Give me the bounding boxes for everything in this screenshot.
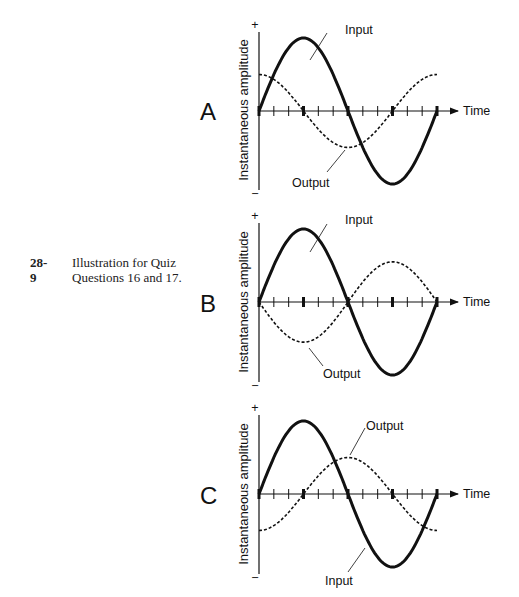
y-axis-label-a: Instantaneous amplitude — [236, 39, 251, 181]
input-label-a: Input — [345, 23, 373, 37]
y-axis-label-b: Instantaneous amplitude — [236, 231, 251, 373]
x-axis-label-b: Time — [463, 295, 490, 309]
minus-symbol-a: − — [251, 187, 258, 201]
panel-letter-b: B — [200, 290, 216, 317]
minus-symbol-b: − — [251, 379, 258, 393]
x-axis-label-c: Time — [463, 487, 490, 501]
output-label-a: Output — [292, 176, 330, 190]
output-label-b: Output — [323, 367, 361, 381]
panel-letter-a: A — [200, 98, 216, 125]
x-axis-label-a: Time — [463, 104, 490, 118]
panel-a: A Instantaneous amplitude + − Time Input… — [200, 18, 490, 201]
y-axis-label-c: Instantaneous amplitude — [236, 423, 251, 565]
phase-diagram: A Instantaneous amplitude + − Time Input… — [0, 0, 519, 597]
plus-symbol-c: + — [251, 401, 258, 415]
panel-b: B Instantaneous amplitude + − Time Input… — [200, 209, 490, 393]
output-label-c: Output — [366, 419, 404, 433]
plus-symbol-a: + — [251, 18, 258, 32]
input-label-c: Input — [325, 574, 353, 588]
plus-symbol-b: + — [251, 209, 258, 223]
input-label-b: Input — [345, 213, 373, 227]
minus-symbol-c: − — [251, 571, 258, 585]
panel-c: C Instantaneous amplitude + − Time Outpu… — [200, 401, 490, 588]
panel-letter-c: C — [200, 482, 217, 509]
